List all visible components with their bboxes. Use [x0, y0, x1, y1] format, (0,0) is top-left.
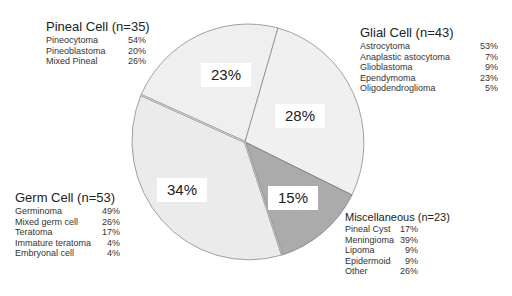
list-item: Epidermoid9% — [345, 256, 418, 267]
list-item: Oligodendroglioma5% — [360, 83, 498, 94]
list-item: Pineal Cyst17% — [345, 224, 418, 235]
slice-label-germ: 34% — [157, 178, 207, 202]
slice-label-glial: 28% — [275, 104, 325, 128]
list-item: Astrocytoma53% — [360, 41, 498, 52]
legend-glial-cell: Glial Cell (n=43) Astrocytoma53% Anaplas… — [360, 25, 498, 94]
list-item: Anaplastic astocytoma7% — [360, 52, 498, 63]
group-title: Miscellaneous (n=23) — [345, 211, 450, 223]
list-item: Pineoblastoma20% — [46, 46, 146, 57]
list-item: Mixed germ cell26% — [15, 217, 120, 228]
list-item: Embryonal cell4% — [15, 248, 120, 259]
slice-label-pineal: 23% — [201, 63, 251, 87]
list-item: Mixed Pineal26% — [46, 56, 146, 67]
group-title: Pineal Cell (n=35) — [46, 19, 150, 34]
list-item: Teratoma17% — [15, 227, 120, 238]
group-title: Germ Cell (n=53) — [15, 190, 120, 205]
list-item: Germinoma49% — [15, 206, 120, 217]
slice-label-misc: 15% — [268, 186, 318, 210]
legend-miscellaneous: Miscellaneous (n=23) Pineal Cyst17% Meni… — [345, 211, 450, 277]
list-item: Immature teratoma4% — [15, 238, 120, 249]
legend-germ-cell: Germ Cell (n=53) Germinoma49% Mixed germ… — [15, 190, 120, 259]
list-item: Lipoma9% — [345, 245, 418, 256]
list-item: Meningioma39% — [345, 235, 418, 246]
list-item: Pineocytoma54% — [46, 35, 146, 46]
list-item: Glioblastoma9% — [360, 62, 498, 73]
list-item: Ependymoma23% — [360, 73, 498, 84]
list-item: Other26% — [345, 266, 418, 277]
group-title: Glial Cell (n=43) — [360, 25, 498, 40]
legend-pineal-cell: Pineal Cell (n=35) Pineocytoma54% Pineob… — [46, 19, 150, 67]
